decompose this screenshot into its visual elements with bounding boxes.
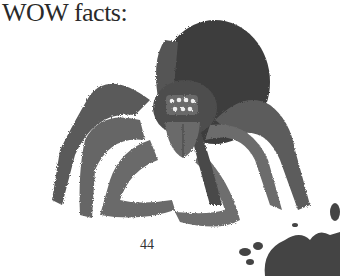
spider-leg — [100, 140, 175, 218]
ink-splatter — [239, 203, 340, 276]
spider-eyes — [166, 95, 198, 115]
page-number: 44 — [140, 237, 154, 253]
tarantula-illustration — [0, 0, 340, 276]
